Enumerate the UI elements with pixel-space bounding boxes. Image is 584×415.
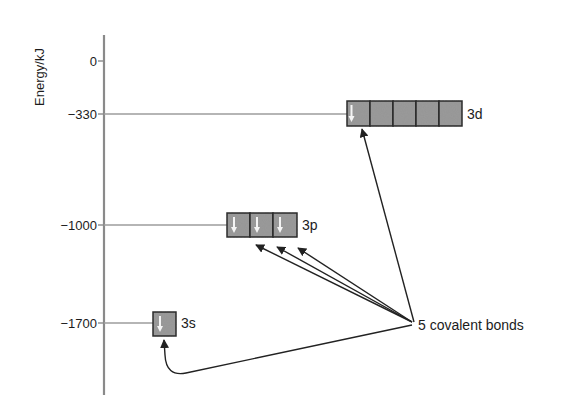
orbital-box [347, 101, 370, 126]
tick-label-minus-1700: −1700 [60, 316, 97, 331]
arrow-to-3p-1 [256, 245, 412, 322]
orbital-3d [347, 101, 462, 126]
tick-label-0: 0 [90, 54, 97, 69]
annotation-label: 5 covalent bonds [418, 317, 524, 333]
orbital-box [250, 213, 273, 237]
arrow-to-3s [164, 325, 412, 374]
energy-level-diagram: Energy/kJ 0 −330 −1000 −1700 3d 3p [0, 0, 584, 415]
orbital-3s [153, 312, 176, 336]
orbital-box [227, 213, 250, 237]
y-axis-label: Energy/kJ [32, 48, 47, 106]
arrow-to-3d [362, 129, 414, 322]
orbital-box [416, 101, 439, 126]
tick-label-minus-330: −330 [68, 107, 97, 122]
orbital-box [273, 213, 297, 237]
arrow-to-3p-2 [277, 247, 412, 322]
orbital-box [153, 312, 176, 336]
orbital-box [370, 101, 393, 126]
orbital-label-3d: 3d [467, 106, 483, 122]
y-axis: Energy/kJ 0 −330 −1000 −1700 [32, 35, 104, 395]
tick-label-minus-1000: −1000 [60, 218, 97, 233]
orbital-box [393, 101, 416, 126]
orbital-box [439, 101, 462, 126]
orbital-label-3p: 3p [302, 217, 318, 233]
bond-arrows [164, 129, 414, 374]
arrow-to-3p-3 [298, 248, 412, 322]
orbital-label-3s: 3s [181, 315, 196, 331]
orbital-3p [227, 213, 297, 237]
